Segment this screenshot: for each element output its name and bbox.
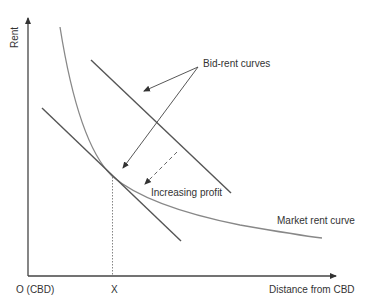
increasing-profit-arrow — [145, 152, 177, 184]
bid-rent-arrow-lower — [123, 67, 198, 168]
x-point-label: X — [111, 284, 118, 295]
market-rent-curve-label: Market rent curve — [277, 215, 355, 226]
y-axis-label: Rent — [9, 27, 20, 48]
origin-label: O (CBD) — [16, 284, 54, 295]
bid-rent-line-upper — [91, 60, 231, 193]
bid-rent-line-lower — [42, 108, 181, 241]
bid-rent-diagram: Rent Distance from CBD O (CBD) X Bid-ren… — [0, 0, 369, 308]
bid-rent-arrow-upper — [144, 67, 198, 91]
increasing-profit-label: Increasing profit — [151, 187, 222, 198]
bid-rent-curves-label: Bid-rent curves — [203, 58, 270, 69]
market-rent-curve — [60, 27, 322, 238]
x-axis-label: Distance from CBD — [269, 284, 355, 295]
